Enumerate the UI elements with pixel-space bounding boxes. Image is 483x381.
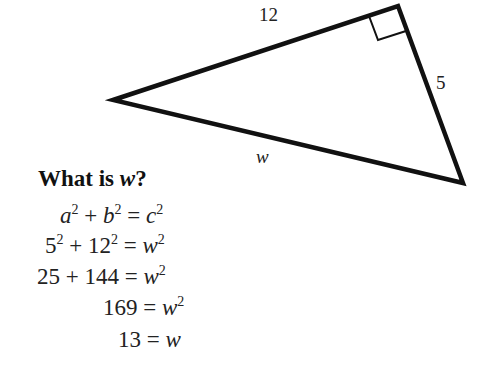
equation-step-5: 13 = w xyxy=(118,327,181,353)
question-heading: What is w? xyxy=(38,166,147,192)
question-variable: w xyxy=(120,166,135,191)
equation-step-4: 169 = w2 xyxy=(103,295,184,321)
right-angle-marker xyxy=(369,16,406,40)
equation-step-1: a2 + b2 = c2 xyxy=(60,203,163,229)
side-label-right: 5 xyxy=(436,72,446,94)
side-label-top: 12 xyxy=(259,4,278,26)
equation-step-3: 25 + 144 = w2 xyxy=(37,264,166,290)
equation-step-2: 52 + 122 = w2 xyxy=(45,233,165,259)
side-label-bottom: w xyxy=(256,146,269,168)
triangle-outline xyxy=(113,6,463,183)
